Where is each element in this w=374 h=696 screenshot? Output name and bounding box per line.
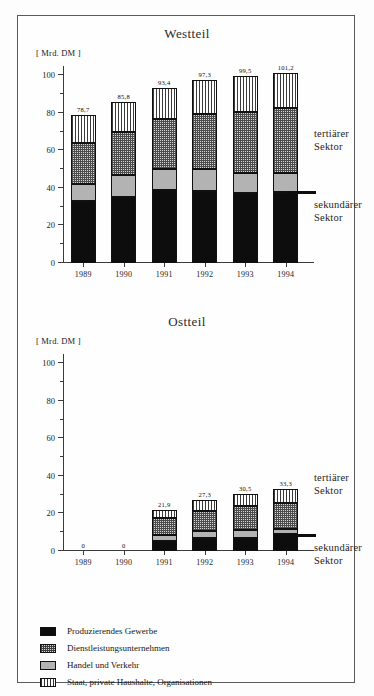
- bar-segment-westteil-1993: [233, 76, 258, 111]
- plot-area-ostteil: 0204060801001989019900199121,9199227,319…: [63, 354, 306, 551]
- x-tick-westteil: [245, 263, 246, 267]
- x-tick-label-ostteil-1994: 1994: [277, 558, 294, 567]
- bar-segment-ostteil-1992: [192, 531, 217, 538]
- legend-label-3: Staat, private Haushalte, Organisationen: [67, 675, 212, 690]
- y-minor-tick-ostteil: [60, 531, 63, 532]
- bar-segment-westteil-1993: [233, 112, 258, 173]
- x-tick-label-westteil-1992: 1992: [196, 270, 213, 279]
- bar-segment-ostteil-1991: [152, 510, 177, 518]
- bar-segment-westteil-1994: [273, 192, 298, 263]
- y-minor-tick-ostteil: [60, 381, 63, 382]
- bar-segment-ostteil-1992: [192, 500, 217, 511]
- bar-segment-westteil-1991: [152, 169, 177, 190]
- bar-total-label-westteil-1994: 101,2: [278, 64, 294, 71]
- bar-westteil-1993: [233, 76, 258, 263]
- y-axis-unit-label-westteil: [ Mrd. DM ]: [36, 48, 81, 58]
- bar-ostteil-1992: [192, 500, 217, 551]
- bar-segment-westteil-1990: [111, 175, 136, 197]
- x-tick-ostteil: [83, 551, 84, 555]
- plot-area-westteil: 020406080100198978,7199085,8199193,41992…: [63, 66, 306, 263]
- x-tick-ostteil: [124, 551, 125, 555]
- figure-page: Westteil [ Mrd. DM ] 020406080100198978,…: [0, 0, 374, 696]
- bar-total-label-westteil-1992: 97,3: [199, 71, 211, 78]
- y-axis-westteil: [63, 66, 64, 263]
- bar-total-label-ostteil-1989: 0: [82, 542, 85, 549]
- x-tick-label-ostteil-1993: 1993: [237, 558, 254, 567]
- x-tick-westteil: [124, 263, 125, 267]
- sector-divider-rule-westteil: [290, 191, 316, 194]
- x-tick-westteil: [205, 263, 206, 267]
- bar-segment-westteil-1991: [152, 119, 177, 169]
- y-tick-ostteil: [58, 512, 63, 513]
- bar-westteil-1989: [71, 115, 96, 263]
- bar-segment-westteil-1994: [273, 173, 298, 191]
- bar-ostteil-1993: [233, 494, 258, 551]
- bar-segment-westteil-1989: [71, 115, 96, 143]
- bar-segment-westteil-1992: [192, 191, 217, 263]
- y-tick-label-westteil: 20: [47, 220, 56, 230]
- y-tick-westteil: [58, 74, 63, 75]
- bar-ostteil-1991: [152, 510, 177, 551]
- checker-swatch-icon: [40, 644, 56, 653]
- bar-total-label-ostteil-1994: 33,3: [280, 480, 292, 487]
- y-tick-label-ostteil: 60: [47, 433, 56, 443]
- bar-segment-westteil-1993: [233, 173, 258, 193]
- vertical-stripe-swatch-icon: [40, 678, 56, 687]
- y-minor-tick-westteil: [60, 168, 63, 169]
- chart-title-ostteil: Ostteil: [18, 314, 356, 330]
- x-tick-label-westteil-1990: 1990: [115, 270, 132, 279]
- bar-total-label-ostteil-1991: 21,9: [158, 501, 170, 508]
- bar-westteil-1991: [152, 88, 177, 263]
- x-tick-label-westteil-1994: 1994: [277, 270, 294, 279]
- y-tick-ostteil: [58, 437, 63, 438]
- legend-item-3: Staat, private Haushalte, Organisationen: [40, 675, 340, 692]
- bar-total-label-westteil-1989: 78,7: [77, 106, 89, 113]
- bar-segment-westteil-1992: [192, 114, 217, 169]
- y-tick-label-ostteil: 20: [47, 508, 56, 518]
- x-tick-label-westteil-1989: 1989: [75, 270, 92, 279]
- x-tick-westteil: [286, 263, 287, 267]
- y-tick-westteil: [58, 224, 63, 225]
- legend-item-0: Produzierendes Gewerbe: [40, 624, 340, 641]
- legend: Produzierendes Gewerbe Dienstleistungsun…: [40, 624, 340, 692]
- y-tick-westteil: [58, 262, 63, 263]
- chart-title-westteil: Westteil: [18, 26, 356, 42]
- bar-westteil-1990: [111, 102, 136, 263]
- legend-label-1: Dienstleistungsunternehmen: [67, 641, 169, 656]
- x-tick-ostteil: [205, 551, 206, 555]
- bar-segment-westteil-1992: [192, 169, 217, 191]
- figure-frame: Westteil [ Mrd. DM ] 020406080100198978,…: [17, 15, 355, 683]
- bar-segment-westteil-1989: [71, 143, 96, 184]
- y-tick-westteil: [58, 149, 63, 150]
- bar-segment-ostteil-1991: [152, 541, 177, 551]
- x-tick-label-westteil-1993: 1993: [237, 270, 254, 279]
- x-tick-ostteil: [245, 551, 246, 555]
- bar-segment-ostteil-1994: [273, 503, 298, 530]
- y-tick-label-ostteil: 100: [42, 358, 55, 368]
- bar-segment-westteil-1992: [192, 80, 217, 114]
- bar-segment-ostteil-1992: [192, 538, 217, 551]
- bar-segment-westteil-1994: [273, 73, 298, 108]
- y-tick-label-westteil: 40: [47, 183, 56, 193]
- y-minor-tick-westteil: [60, 206, 63, 207]
- bar-segment-ostteil-1991: [152, 518, 177, 535]
- x-tick-westteil: [164, 263, 165, 267]
- bar-segment-westteil-1991: [152, 88, 177, 119]
- annotation-tertiary-westteil: tertiärer Sektor: [314, 128, 349, 153]
- bar-segment-westteil-1994: [273, 108, 298, 173]
- bar-segment-ostteil-1993: [233, 494, 258, 507]
- y-tick-westteil: [58, 187, 63, 188]
- annotation-secondary-ostteil: sekundärer Sektor: [314, 542, 362, 567]
- bar-segment-westteil-1990: [111, 197, 136, 263]
- bar-total-label-westteil-1991: 93,4: [158, 79, 170, 86]
- x-tick-label-westteil-1991: 1991: [156, 270, 173, 279]
- bar-total-label-ostteil-1992: 27,3: [199, 491, 211, 498]
- bar-segment-ostteil-1993: [233, 506, 258, 530]
- bar-segment-westteil-1989: [71, 201, 96, 263]
- x-tick-label-ostteil-1990: 1990: [115, 558, 132, 567]
- legend-label-2: Handel und Verkehr: [67, 658, 139, 673]
- solid-black-swatch-icon: [40, 627, 56, 636]
- y-tick-label-ostteil: 80: [47, 396, 56, 406]
- y-tick-label-westteil: 80: [47, 108, 56, 118]
- bar-segment-ostteil-1993: [233, 538, 258, 551]
